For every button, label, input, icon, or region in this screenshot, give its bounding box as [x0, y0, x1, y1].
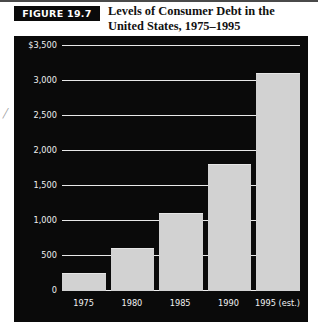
y-axis-tick-3500: $3,500 [28, 40, 57, 50]
x-axis-label: 1995 (est.) [255, 298, 300, 310]
bar [256, 73, 300, 291]
page-top-rule [0, 0, 318, 2]
x-axis-label: 1975 [62, 298, 105, 310]
bar-column-1980 [111, 46, 155, 291]
y-axis-tick-3000: 3,000 [34, 75, 57, 85]
scan-artifact-mark: / [1, 103, 13, 124]
x-axis-label: 1990 [207, 298, 250, 310]
y-axis-tick-2000: 2,000 [34, 145, 57, 155]
figure-title-line-2: United States, 1975–1995 [108, 19, 314, 34]
bar-column-1985 [159, 46, 203, 291]
bar [111, 248, 155, 291]
bar-column-1975 [62, 46, 106, 291]
figure-title-line-1: Levels of Consumer Debt in the [108, 4, 314, 19]
figure-header: FIGURE 19.7 Levels of Consumer Debt in t… [0, 4, 318, 34]
bar-column-1990 [208, 46, 252, 291]
bar-series [62, 46, 300, 291]
y-axis-tick-2500: 2,500 [34, 110, 57, 120]
y-axis-tick-1000: 1,000 [34, 215, 57, 225]
y-axis-tick-500: 500 [41, 250, 57, 260]
bar [208, 164, 252, 291]
y-axis-tick-1500: 1,500 [34, 180, 57, 190]
page-title: Levels of Consumer Debt in the United St… [108, 4, 314, 34]
bar [62, 273, 106, 292]
plot-area: 05001,0001,5002,0002,5003,000$3,500 [62, 46, 300, 291]
figure-number-badge: FIGURE 19.7 [14, 6, 100, 21]
chart-panel: 05001,0001,5002,0002,5003,000$3,500 1975… [14, 36, 308, 322]
x-axis-label: 1985 [159, 298, 202, 310]
x-axis-label: 1980 [110, 298, 153, 310]
bar [159, 213, 203, 291]
bar-column-1995-est- [256, 46, 300, 291]
x-axis-labels: 19751980198519901995 (est.) [62, 298, 300, 310]
y-axis-tick-0: 0 [52, 285, 57, 295]
